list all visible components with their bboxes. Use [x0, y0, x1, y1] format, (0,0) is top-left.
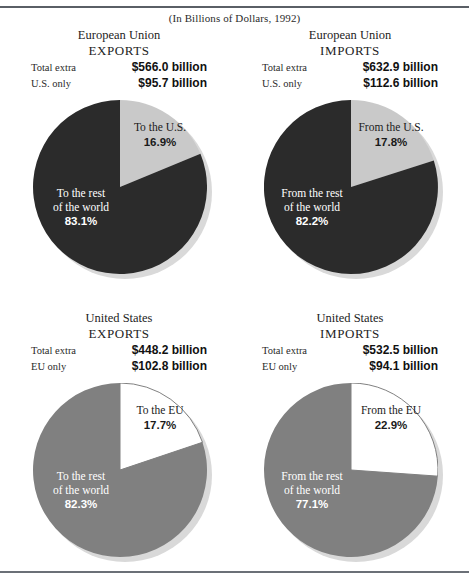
stat-value: $94.1 billion [334, 359, 438, 374]
stat-row: EU only $102.8 billion [31, 359, 207, 375]
panel-region: United States [243, 311, 457, 326]
stat-label: U.S. only [262, 77, 334, 92]
stat-label: Total extra [31, 344, 103, 359]
stat-row: Total extra $632.9 billion [262, 60, 438, 76]
panel-flow: EXPORTS [12, 43, 226, 59]
panel-stats: Total extra $566.0 billion U.S. only $95… [31, 60, 207, 91]
pie-slices [264, 100, 438, 274]
panel-header: United States EXPORTS Total extra $448.2… [12, 311, 226, 374]
panel-flow: EXPORTS [12, 326, 226, 342]
stat-label: Total extra [262, 61, 334, 76]
panel-eu-exports: European Union EXPORTS Total extra $566.… [12, 28, 226, 291]
figure-page: (In Billions of Dollars, 1992) European … [0, 0, 469, 583]
panel-header: United States IMPORTS Total extra $532.5… [243, 311, 457, 374]
stat-row: Total extra $532.5 billion [262, 343, 438, 359]
stat-value: $566.0 billion [103, 60, 207, 75]
pie-chart-us-imports: From the EU 22.9% From the rest of the w… [243, 378, 457, 574]
pie-slice-minor[interactable] [351, 383, 438, 476]
panel-region: European Union [243, 28, 457, 43]
panel-flow: IMPORTS [243, 43, 457, 59]
pie-chart-eu-exports: To the U.S. 16.9% To the rest of the wor… [12, 95, 226, 291]
stat-row: Total extra $566.0 billion [31, 60, 207, 76]
panel-stats: Total extra $632.9 billion U.S. only $11… [262, 60, 438, 91]
stat-value: $95.7 billion [103, 76, 207, 91]
panel-header: European Union IMPORTS Total extra $632.… [243, 28, 457, 91]
panel-us-exports: United States EXPORTS Total extra $448.2… [12, 311, 226, 574]
stat-label: U.S. only [31, 77, 103, 92]
stat-value: $448.2 billion [103, 343, 207, 358]
stat-row: U.S. only $112.6 billion [262, 76, 438, 92]
panel-region: European Union [12, 28, 226, 43]
panel-flow: IMPORTS [243, 326, 457, 342]
stat-row: U.S. only $95.7 billion [31, 76, 207, 92]
stat-row: Total extra $448.2 billion [31, 343, 207, 359]
stat-label: EU only [262, 360, 334, 375]
stat-value: $632.9 billion [334, 60, 438, 75]
pie-slices [33, 100, 207, 274]
stat-value: $532.5 billion [334, 343, 438, 358]
panel-header: European Union EXPORTS Total extra $566.… [12, 28, 226, 91]
stat-row: EU only $94.1 billion [262, 359, 438, 375]
top-divider-rule [0, 6, 469, 8]
panel-stats: Total extra $532.5 billion EU only $94.1… [262, 343, 438, 374]
pie-chart-eu-imports: From the U.S. 17.8% From the rest of the… [243, 95, 457, 291]
stat-label: EU only [31, 360, 103, 375]
pie-chart-us-exports: To the EU 17.7% To the rest of the world… [12, 378, 226, 574]
panel-eu-imports: European Union IMPORTS Total extra $632.… [243, 28, 457, 291]
stat-label: Total extra [262, 344, 334, 359]
figure-title: (In Billions of Dollars, 1992) [0, 12, 469, 24]
panel-region: United States [12, 311, 226, 326]
panel-us-imports: United States IMPORTS Total extra $532.5… [243, 311, 457, 574]
stat-value: $112.6 billion [334, 76, 438, 91]
pie-slices [33, 383, 207, 557]
pie-slices [264, 383, 438, 557]
panel-stats: Total extra $448.2 billion EU only $102.… [31, 343, 207, 374]
stat-label: Total extra [31, 61, 103, 76]
stat-value: $102.8 billion [103, 359, 207, 374]
